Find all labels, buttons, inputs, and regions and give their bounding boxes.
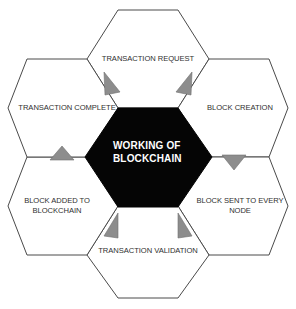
diagram-center-title: WORKING OF BLOCKCHAIN: [113, 140, 213, 165]
blockchain-cycle-diagram: TRANSACTION REQUEST BLOCK CREATION BLOCK…: [0, 0, 296, 309]
